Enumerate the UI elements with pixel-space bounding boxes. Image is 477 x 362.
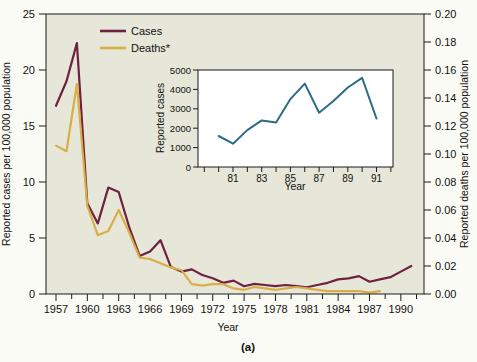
legend-label-cases: Cases	[131, 25, 163, 37]
inset-y-tick-label: 0	[186, 162, 191, 173]
figure-container: 05101520250.000.020.040.060.080.100.120.…	[0, 0, 477, 362]
inset-x-tick-label: 91	[371, 173, 383, 184]
inset-x-axis-title: Year	[284, 180, 306, 192]
inset-y-tick-label: 2000	[170, 123, 191, 134]
inset-x-tick-label: 81	[227, 173, 239, 184]
right-y-tick-label: 0.06	[435, 204, 456, 216]
x-tick-label: 1969	[169, 303, 193, 315]
right-y-tick-label: 0.04	[435, 232, 456, 244]
left-y-tick-label: 25	[23, 8, 35, 20]
legend-label-deaths: Deaths*	[131, 42, 171, 54]
main-left-axis-title: Reported cases per 100,000 population	[0, 62, 12, 246]
x-tick-label: 1957	[44, 303, 68, 315]
right-y-tick-label: 0.02	[435, 260, 456, 272]
right-y-tick-label: 0.00	[435, 288, 456, 300]
inset-y-tick-label: 4000	[170, 84, 191, 95]
inset-y-tick-label: 5000	[170, 65, 191, 76]
inset-x-tick-label: 89	[342, 173, 354, 184]
right-y-tick-label: 0.20	[435, 8, 456, 20]
x-tick-label: 1960	[75, 303, 99, 315]
left-y-tick-label: 20	[23, 64, 35, 76]
x-tick-label: 1978	[263, 303, 287, 315]
right-y-tick-label: 0.12	[435, 120, 456, 132]
x-tick-label: 1987	[357, 303, 381, 315]
x-tick-label: 1984	[326, 303, 350, 315]
x-tick-label: 1966	[138, 303, 162, 315]
x-tick-label: 1990	[389, 303, 413, 315]
x-tick-label: 1963	[106, 303, 130, 315]
left-y-tick-label: 0	[29, 288, 35, 300]
inset-x-tick-label: 83	[256, 173, 268, 184]
main-right-axis-title: Reported deaths per 100,000 population	[458, 60, 470, 248]
left-y-tick-label: 15	[23, 120, 35, 132]
epidemiology-line-chart: 05101520250.000.020.040.060.080.100.120.…	[0, 0, 477, 362]
right-y-tick-label: 0.14	[435, 92, 456, 104]
x-tick-label: 1972	[201, 303, 225, 315]
right-y-tick-label: 0.16	[435, 64, 456, 76]
inset-y-axis-title: Reported cases	[155, 83, 166, 153]
inset-x-tick-label: 87	[314, 173, 326, 184]
inset-y-tick-label: 3000	[170, 103, 191, 114]
inset-y-tick-label: 1000	[170, 142, 191, 153]
x-tick-label: 1975	[232, 303, 256, 315]
right-y-tick-label: 0.18	[435, 36, 456, 48]
x-tick-label: 1981	[295, 303, 319, 315]
right-y-tick-label: 0.10	[435, 148, 456, 160]
right-y-tick-label: 0.08	[435, 176, 456, 188]
figure-caption: (a)	[241, 341, 255, 353]
left-y-tick-label: 5	[29, 232, 35, 244]
main-x-axis-title: Year	[217, 321, 239, 333]
left-y-tick-label: 10	[23, 176, 35, 188]
